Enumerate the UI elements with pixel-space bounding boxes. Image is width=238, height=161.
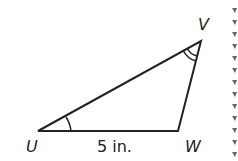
triangle-uvw bbox=[38, 41, 201, 131]
vertex-label-v: V bbox=[198, 15, 210, 34]
angle-arc-u bbox=[66, 117, 71, 131]
angle-arc-v-inner bbox=[187, 48, 197, 56]
vertex-label-u: U bbox=[26, 137, 38, 156]
vertex-label-w: W bbox=[185, 137, 202, 156]
triangle-diagram: V U W 5 in. bbox=[0, 0, 238, 161]
edge-marks bbox=[232, 8, 237, 157]
side-label-uw: 5 in. bbox=[97, 137, 132, 156]
